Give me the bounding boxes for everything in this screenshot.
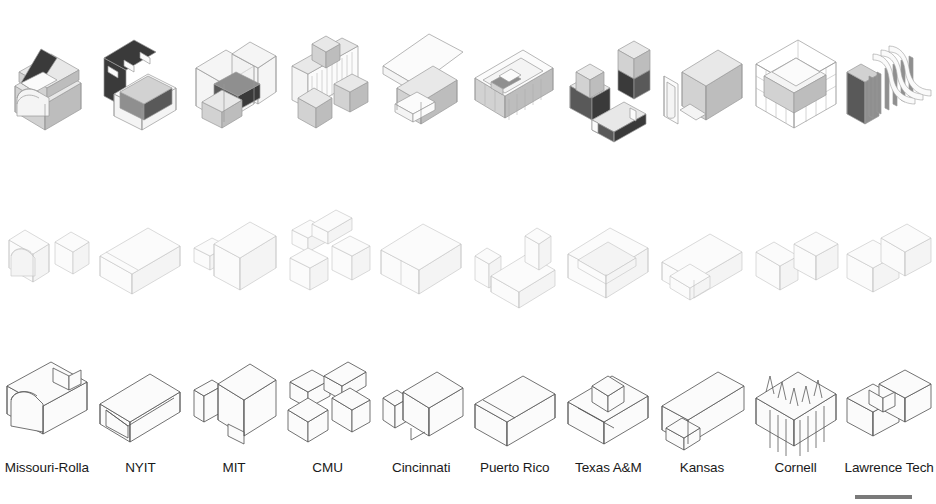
model-massing-cmu[interactable] <box>281 190 375 310</box>
model-line-cornell[interactable] <box>749 340 843 455</box>
column-label-lawrence-tech: Lawrence Tech <box>842 455 936 479</box>
column-label-kansas: Kansas <box>655 455 749 479</box>
model-rendered-mit[interactable] <box>187 10 281 150</box>
model-comparison-grid: Missouri-Rolla NYIT MIT CMU Cincinnati P… <box>0 0 936 504</box>
column-label-row: Missouri-Rolla NYIT MIT CMU Cincinnati P… <box>0 455 936 479</box>
model-rendered-missouri-rolla[interactable] <box>0 10 94 150</box>
model-rendered-texas-am[interactable] <box>562 10 656 150</box>
model-line-nyit[interactable] <box>94 340 188 455</box>
model-line-missouri-rolla[interactable] <box>0 340 94 455</box>
model-massing-puerto-rico[interactable] <box>468 190 562 310</box>
row-massing-models <box>0 190 936 310</box>
model-rendered-puerto-rico[interactable] <box>468 10 562 150</box>
column-label-puerto-rico: Puerto Rico <box>468 455 562 479</box>
model-line-cmu[interactable] <box>281 340 375 455</box>
model-line-lawrence-tech[interactable] <box>842 340 936 455</box>
column-label-missouri-rolla: Missouri-Rolla <box>0 455 94 479</box>
model-massing-nyit[interactable] <box>94 190 188 310</box>
model-rendered-cincinnati[interactable] <box>374 10 468 150</box>
horizontal-scrollbar[interactable] <box>855 495 912 499</box>
model-massing-texas-am[interactable] <box>562 190 656 310</box>
model-massing-kansas[interactable] <box>655 190 749 310</box>
row-rendered-models <box>0 10 936 150</box>
model-rendered-cornell[interactable] <box>749 10 843 150</box>
column-label-cornell: Cornell <box>749 455 843 479</box>
model-rendered-kansas[interactable] <box>655 10 749 150</box>
model-line-texas-am[interactable] <box>562 340 656 455</box>
model-massing-mit[interactable] <box>187 190 281 310</box>
model-massing-cincinnati[interactable] <box>374 190 468 310</box>
model-line-cincinnati[interactable] <box>374 340 468 455</box>
column-label-cmu: CMU <box>281 455 375 479</box>
model-rendered-nyit[interactable] <box>94 10 188 150</box>
model-rendered-lawrence-tech[interactable] <box>842 10 936 150</box>
model-line-kansas[interactable] <box>655 340 749 455</box>
model-rendered-cmu[interactable] <box>281 10 375 150</box>
model-massing-cornell[interactable] <box>749 190 843 310</box>
row-line-drawings <box>0 340 936 455</box>
column-label-mit: MIT <box>187 455 281 479</box>
model-massing-lawrence-tech[interactable] <box>842 190 936 310</box>
model-massing-missouri-rolla[interactable] <box>0 190 94 310</box>
column-label-texas-am: Texas A&M <box>562 455 656 479</box>
model-line-puerto-rico[interactable] <box>468 340 562 455</box>
column-label-cincinnati: Cincinnati <box>374 455 468 479</box>
column-label-nyit: NYIT <box>94 455 188 479</box>
model-line-mit[interactable] <box>187 340 281 455</box>
